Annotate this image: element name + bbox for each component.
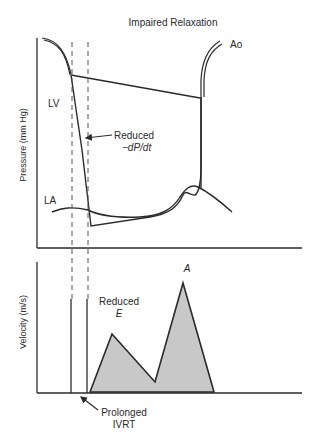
pressure-y-label: Pressure (mm Hg) — [18, 108, 28, 182]
aortic-curve-b — [204, 44, 222, 97]
la-label: LA — [44, 195, 57, 206]
ivrt-arrow — [81, 397, 98, 410]
a-wave-label: A — [183, 263, 191, 274]
dpdt-label-line2: −dP/dt — [122, 142, 152, 153]
ivrt-label-line1: Prolonged — [101, 407, 147, 418]
pressure-panel: Pressure (mm Hg) LV LA Ao Reduced −dP/dt — [18, 38, 302, 248]
ao-label: Ao — [230, 39, 243, 50]
dpdt-arrow — [86, 135, 112, 138]
dpdt-label-line1: Reduced — [114, 130, 154, 141]
velocity-panel: Velocity (m/s) A Reduced E Prolonged IVR… — [18, 262, 302, 430]
e-wave-label-line1: Reduced — [99, 296, 139, 307]
velocity-y-label: Velocity (m/s) — [18, 295, 28, 349]
e-wave-label-line2: E — [116, 308, 123, 319]
la-pressure-curve — [52, 186, 232, 217]
lv-label: LV — [48, 98, 60, 109]
impaired-relaxation-diagram: Impaired Relaxation Pressure (mm Hg) LV … — [0, 0, 313, 438]
lv-curve-upper-a — [42, 38, 71, 74]
diagram-title: Impaired Relaxation — [129, 17, 218, 28]
aortic-pressure-decline — [71, 75, 200, 98]
ivrt-label-line2: IVRT — [113, 419, 136, 430]
